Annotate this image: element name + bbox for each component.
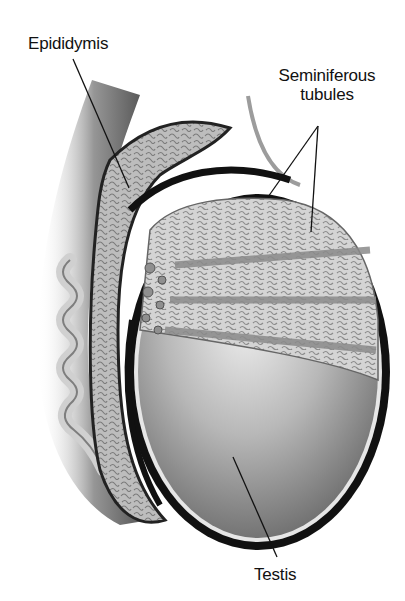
seminiferous-leader-line-1: [268, 126, 318, 197]
label-seminiferous-line2: tubules: [252, 85, 402, 104]
label-seminiferous-line1: Seminiferous: [252, 66, 402, 85]
label-epididymis: Epididymis: [28, 34, 108, 53]
label-seminiferous-tubules: Seminiferous tubules: [252, 66, 402, 104]
label-testis: Testis: [254, 565, 296, 584]
